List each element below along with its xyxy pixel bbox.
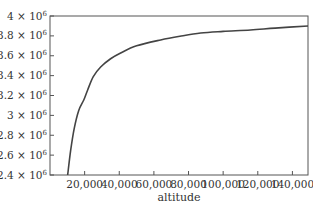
- y-tick-label: 2.4 × 106: [0, 169, 48, 181]
- y-tick-label: 2.8 × 106: [0, 129, 48, 141]
- y-tick-label: 3 × 106: [7, 109, 48, 121]
- x-tick-label: 140,000: [271, 178, 313, 190]
- plot-border: [50, 16, 308, 175]
- x-axis: 20,00040,00060,00080,000100,000120,00014…: [66, 171, 313, 190]
- x-axis-title: altitude: [157, 191, 200, 204]
- y-tick-label: 3.8 × 106: [0, 29, 48, 41]
- y-axis: 2.4 × 1062.6 × 1062.8 × 1063 × 1063.2 × …: [0, 10, 54, 181]
- y-tick-label: 2.6 × 106: [0, 149, 48, 161]
- y-tick-label: 3.2 × 106: [0, 89, 48, 101]
- x-tick-label: 60,000: [136, 178, 173, 190]
- y-tick-label: 3.6 × 106: [0, 49, 48, 61]
- x-tick-label: 20,000: [66, 178, 103, 190]
- y-tick-label: 3.4 × 106: [0, 69, 48, 81]
- chart: 2.4 × 1062.6 × 1062.8 × 1063 × 1063.2 × …: [0, 0, 313, 209]
- data-line: [68, 26, 308, 175]
- x-tick-label: 40,000: [101, 178, 138, 190]
- plot-frame: [50, 16, 308, 175]
- series-layer: [68, 26, 308, 175]
- y-tick-label: 4 × 106: [7, 10, 48, 22]
